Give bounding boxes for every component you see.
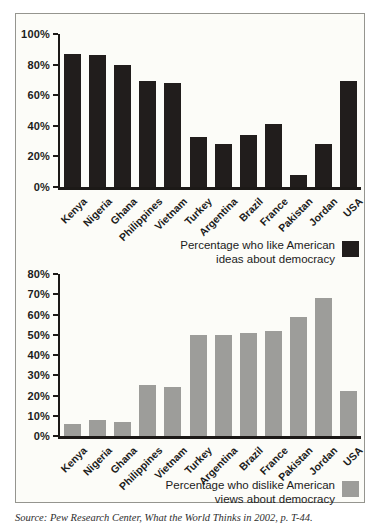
y-tick-label: 60% [16,309,50,321]
bar-pakistan [290,317,307,437]
dislike-legend-line2: views about democracy [215,493,335,505]
y-tick-label: 80% [16,268,50,280]
y-tick-label: 40% [16,349,50,361]
dislike-legend-label: Percentage who dislike Americanviews abo… [166,478,342,506]
like-legend-label: Percentage who like Americanideas about … [180,238,342,266]
x-label-usa: USA [341,444,365,468]
bar-kenya [64,424,81,436]
plot-area [58,274,361,439]
dislike-legend-line1: Percentage who dislike American [166,479,335,491]
y-tick-label: 0% [16,430,50,442]
y-tick-label: 70% [16,288,50,300]
dislike-legend-swatch [342,481,359,497]
source-note: Source: Pew Research Center, What the Wo… [15,512,313,523]
bar-turkey [190,335,207,436]
y-tick-label: 50% [16,329,50,341]
dislike-legend: Percentage who dislike Americanviews abo… [166,478,359,506]
bar-brazil [240,333,257,436]
y-tick-label: 10% [16,410,50,422]
like-legend-line1: Percentage who like American [180,239,335,251]
bar-jordan [315,298,332,436]
bar-vietnam [164,387,181,436]
figure-frame: 100%80%60%40%20%0%KenyaNigeriaGhanaPhili… [15,13,365,503]
bar-philippines [139,385,156,436]
bar-usa [340,391,357,436]
bar-france [265,331,282,436]
bar-ghana [114,422,131,436]
like-legend-line2: ideas about democracy [216,253,335,265]
bar-nigeria [89,420,106,436]
like-legend: Percentage who like Americanideas about … [180,238,359,266]
like-legend-swatch [342,241,359,257]
bar-argentina [215,335,232,436]
y-tick-label: 30% [16,369,50,381]
y-tick-label: 20% [16,390,50,402]
